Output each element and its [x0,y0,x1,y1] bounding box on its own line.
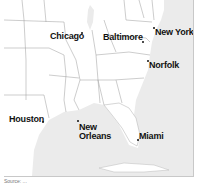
city-label-baltimore: Baltimore [103,33,143,42]
city-label-chicago: Chicago [50,32,84,41]
city-label-new-york: New York [155,28,194,37]
city-label-houston: Houston [9,115,44,124]
lake-michigan [87,5,94,30]
city-label-miami: Miami [139,132,164,141]
map-frame: Chicago Baltimore New York Norfolk Houst… [4,0,194,177]
city-label-norfolk: Norfolk [149,61,179,70]
map-caption: Source: ... [4,178,27,183]
city-label-new-orleans-line2: Orleans [79,132,111,141]
